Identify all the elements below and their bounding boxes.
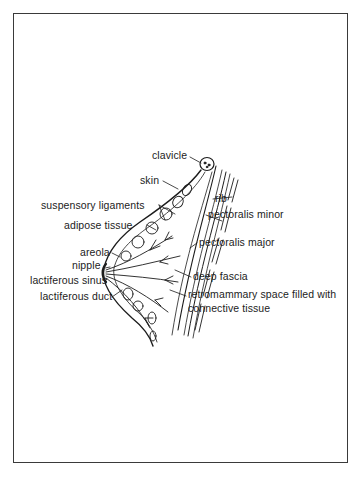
label-clavicle: clavicle xyxy=(152,149,187,161)
label-adipose-tissue: adipose tissue xyxy=(64,219,133,231)
label-lactiferous-sinus: lactiferous sinus xyxy=(30,274,107,286)
label-suspensory-ligaments: suspensory ligaments xyxy=(41,199,145,211)
breast-anatomy-drawing xyxy=(0,0,360,479)
label-lactiferous-duct: lactiferous duct xyxy=(40,290,112,302)
label-areola: areola xyxy=(80,246,110,258)
label-pectoralis-major: pectoralis major xyxy=(199,236,275,248)
label-retromammary-space-line1: retromammary space filled with xyxy=(188,288,336,300)
label-skin: skin xyxy=(140,174,159,186)
label-retromammary-space-line2: connective tissue xyxy=(188,302,270,314)
clavicle-shape xyxy=(200,158,214,171)
label-nipple: nipple xyxy=(72,259,101,271)
label-rib: rib xyxy=(215,192,227,204)
label-pectoralis-minor: pectoralis minor xyxy=(208,208,284,220)
label-deep-fascia: deep fascia xyxy=(193,270,248,282)
